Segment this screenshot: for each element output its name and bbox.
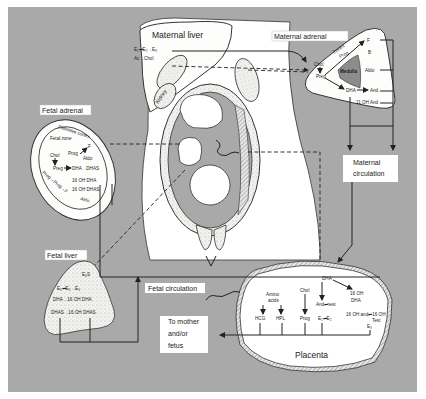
pl-and-test: And⇌test <box>316 302 336 307</box>
fl-estrogens: E₁⇌E₂→E₃ <box>57 286 80 291</box>
fa-chol: Chol <box>50 153 59 158</box>
fetal-circulation-box: Fetal circulation <box>145 283 205 293</box>
pl-16oh-and: 16 OH and⇌16 OH <box>346 312 386 317</box>
fl-row1: DHA→16 OH DHA <box>53 297 92 302</box>
fl-e3s: E₃S <box>82 272 90 277</box>
maternal-liver-reaction-2: Ac→Chol <box>134 56 153 61</box>
fa-16oh-dha: 16 OH DHA <box>72 178 97 183</box>
fa-dha-dhas: DHA→DHAS <box>72 166 99 171</box>
pl-e1e2: E₁⇌E₂ <box>318 316 332 321</box>
ma-b: B <box>368 50 371 55</box>
fetal-zone-label: Fetal zone <box>50 136 72 141</box>
pl-hpl: HPL <box>276 316 285 321</box>
pl-chol: Chol <box>300 288 309 293</box>
ma-chol: Chol <box>314 62 323 67</box>
maternal-liver-label: Maternal liver <box>152 30 203 40</box>
maternal-circulation-line2: circulation <box>353 170 385 177</box>
pl-amino: Amino <box>266 292 279 297</box>
pl-test: Test <box>372 318 381 323</box>
medulla-label: Medulla <box>340 69 358 74</box>
to-mother-line1: To mother <box>168 318 200 325</box>
ma-11oh-and: 11 OH And <box>356 100 379 105</box>
fa-f: F <box>88 144 91 149</box>
fetoplacental-steroid-diagram: Maternal liver E₁⇌E₂→E₃ Ac→Chol Kidney M… <box>0 0 426 399</box>
fa-16oh-dhas: 16 OH DHAS <box>72 187 99 192</box>
pl-prog: Prog <box>300 316 310 321</box>
maternal-liver-reaction-1: E₁⇌E₂→E₃ <box>134 47 157 52</box>
fetal-circulation-label: Fetal circulation <box>148 285 197 292</box>
pl-16oh-1: 16 OH <box>350 291 363 296</box>
fetal-adrenal-label: Fetal adrenal <box>42 107 83 114</box>
fl-row2: DHAS→16 OH DHAS <box>51 310 96 315</box>
to-mother-line3: fetus <box>168 342 184 349</box>
ma-aldo: Aldo <box>365 68 375 73</box>
placenta-label: Placenta <box>295 350 328 360</box>
maternal-circulation-box: Maternal circulation <box>343 155 398 182</box>
to-mother-box: To mother and/or fetus <box>160 316 208 353</box>
fa-aldo: Aldo <box>83 156 93 161</box>
maternal-circulation-line1: Maternal <box>353 159 381 166</box>
to-mother-line2: and/or <box>168 330 189 337</box>
pl-e3: E₃ <box>367 324 372 329</box>
fetal-liver-label: Fetal liver <box>47 252 78 259</box>
maternal-adrenal-label: Maternal adrenal <box>274 33 327 40</box>
fa-prog: Prog <box>68 151 78 156</box>
ma-dha: DHA <box>346 88 357 93</box>
fa-preg: Preg <box>53 166 63 171</box>
pl-16oh-2: DHA <box>351 298 362 303</box>
ma-f: F <box>367 38 370 43</box>
pl-acids: acids <box>268 298 279 303</box>
pl-hcg: HCG <box>255 316 266 321</box>
ma-preg: Preg <box>316 74 326 79</box>
ma-and: And <box>370 88 379 93</box>
